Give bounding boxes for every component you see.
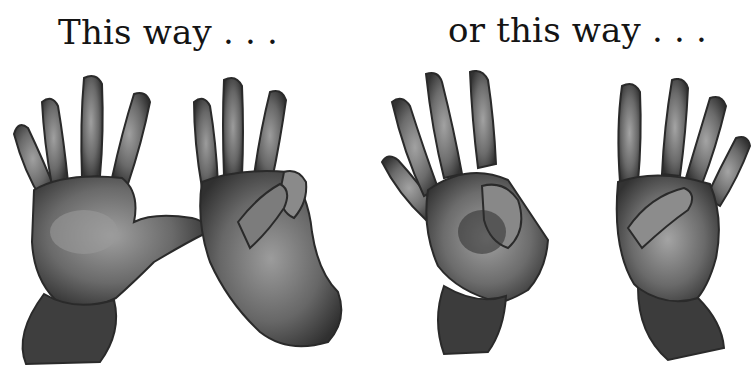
thumb-middle-finger-hand-illustration <box>378 70 558 360</box>
open-hand-illustration <box>4 72 214 367</box>
caption-this-way: This way . . . <box>58 12 278 52</box>
caption-or-this-way: or this way . . . <box>448 10 707 50</box>
thumb-ring-finger-hand-illustration <box>598 78 753 363</box>
three-fingers-thumb-pinky-hand-illustration <box>188 72 368 362</box>
